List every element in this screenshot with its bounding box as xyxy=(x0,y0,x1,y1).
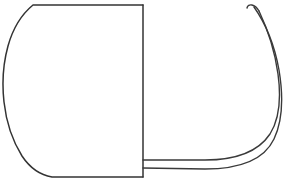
vessel-body-outline xyxy=(3,5,143,177)
vessel-profile-figure xyxy=(0,0,284,182)
vessel-drawing-canvas xyxy=(0,0,284,182)
